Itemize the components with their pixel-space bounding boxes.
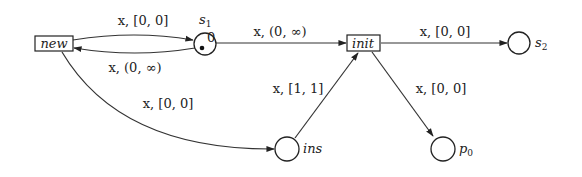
arc-label-s1-init: x, (0, ∞) — [253, 24, 306, 39]
place-p0-label: p0 — [459, 141, 473, 158]
token-age: 0 — [207, 30, 215, 45]
arc-label-new-s1: x, [0, 0] — [118, 13, 169, 28]
place-p0: p0 — [431, 137, 473, 161]
petri-net-diagram: new init 0 s1 s2 ins p0 x, [0, 0] x, (0,… — [0, 0, 582, 177]
transition-new: new — [35, 36, 73, 51]
transition-init: init — [347, 35, 380, 51]
arc-s1-to-new — [74, 48, 195, 53]
arc-label-new-ins: x, [0, 0] — [143, 96, 194, 111]
token-icon — [200, 46, 205, 51]
arc-label-init-s2: x, [0, 0] — [420, 24, 471, 39]
place-s1-label: s1 — [199, 12, 211, 29]
transition-init-label: init — [352, 36, 375, 51]
arc-label-s1-new: x, (0, ∞) — [108, 60, 161, 75]
place-ins-label: ins — [303, 141, 323, 156]
arc-new-to-s1 — [73, 35, 193, 40]
place-ins: ins — [275, 137, 323, 161]
place-s1: 0 s1 — [194, 12, 216, 55]
place-s2: s2 — [508, 32, 547, 54]
arc-label-init-p0: x, [0, 0] — [416, 81, 467, 96]
arc-label-ins-init: x, [1, 1] — [273, 81, 324, 96]
place-s2-label: s2 — [535, 35, 547, 52]
transition-new-label: new — [40, 36, 67, 51]
